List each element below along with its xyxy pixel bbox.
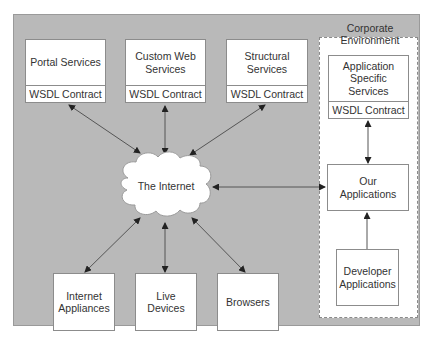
arrow-internet-appliances [85, 218, 140, 272]
application-specific-wsdl-contract: WSDL Contract [329, 101, 408, 118]
structural-services-wsdl-contract: WSDL Contract [227, 85, 307, 102]
live-devices-box: Live Devices [135, 273, 197, 331]
developer-applications-box: Developer Applications [336, 249, 399, 306]
arrow-portal-internet [69, 105, 140, 153]
portal-services-wsdl-contract: WSDL Contract [26, 85, 105, 102]
arrow-internet-browsers [192, 218, 245, 272]
developer-applications-label: Developer Applications [337, 250, 398, 305]
custom-web-services-label: Custom Web Services [126, 40, 205, 85]
portal-services-box: Portal Services WSDL Contract [25, 39, 106, 103]
arrow-structural-internet [190, 105, 265, 155]
application-specific-services-label: Application Specific Services [329, 56, 408, 101]
custom-web-services-wsdl-contract: WSDL Contract [126, 85, 205, 102]
portal-services-label: Portal Services [26, 40, 105, 85]
internet-label: The Internet [128, 180, 204, 192]
structural-services-box: Structural Services WSDL Contract [226, 39, 308, 103]
internet-appliances-label: Internet Appliances [54, 274, 114, 330]
our-applications-label: Our Applications [328, 165, 408, 210]
application-specific-services-box: Application Specific Services WSDL Contr… [328, 55, 409, 119]
internet-appliances-box: Internet Appliances [53, 273, 115, 331]
custom-web-services-box: Custom Web Services WSDL Contract [125, 39, 206, 103]
browsers-box: Browsers [217, 273, 279, 331]
our-applications-box: Our Applications [327, 164, 409, 211]
structural-services-label: Structural Services [227, 40, 307, 85]
live-devices-label: Live Devices [136, 274, 196, 330]
browsers-label: Browsers [218, 274, 278, 330]
